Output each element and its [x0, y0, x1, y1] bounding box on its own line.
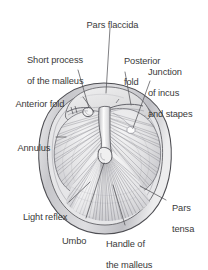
- label-short-process-line2: of the malleus: [27, 76, 83, 86]
- label-short-process-of-the-malleus: Short process of the malleus: [22, 44, 114, 86]
- handle-of-malleus-structure: [98, 106, 112, 163]
- label-umbo-line1: Umbo: [62, 236, 86, 246]
- label-junction-line3: and stapes: [148, 109, 193, 119]
- label-posterior-fold-line2: fold: [124, 77, 139, 87]
- label-light-reflex-line1: Light reflex: [23, 212, 67, 222]
- label-pars-flaccida-line1: Pars flaccida: [87, 20, 139, 30]
- label-pars-tensa-line2: tensa: [172, 224, 194, 234]
- label-short-process-line1: Short process: [27, 55, 83, 65]
- umbo-structure: [98, 147, 112, 163]
- label-handle-of-the-malleus: Handle of the malleus: [101, 228, 163, 270]
- label-pars-flaccida: Pars flaccida: [62, 9, 158, 30]
- label-handle-line1: Handle of: [106, 239, 145, 249]
- label-handle-line2: the malleus: [106, 260, 152, 270]
- label-annulus: Annulus: [13, 132, 57, 153]
- label-anterior-fold-line1: Anterior fold: [15, 99, 64, 109]
- label-junction-line1: Junction: [148, 67, 182, 77]
- label-pars-tensa-line1: Pars: [172, 203, 191, 213]
- label-junction-of-incus-and-stapes: Junction of incus and stapes: [143, 56, 207, 120]
- label-light-reflex: Light reflex: [18, 201, 80, 222]
- label-umbo: Umbo: [57, 225, 91, 246]
- label-anterior-fold: Anterior fold: [11, 88, 87, 109]
- label-pars-tensa: Pars tensa: [167, 192, 207, 234]
- junction-incus-stapes-marker: [127, 127, 135, 134]
- label-annulus-line1: Annulus: [17, 143, 50, 153]
- label-junction-line2: of incus: [148, 88, 179, 98]
